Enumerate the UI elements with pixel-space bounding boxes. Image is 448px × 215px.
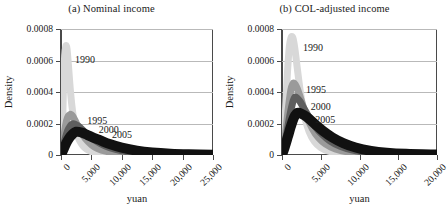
panel-a-x-tick-label: 0 (62, 162, 72, 172)
panel-a-x-tick-label: 15,000 (138, 162, 164, 188)
panel-b-series-2005 (282, 113, 437, 155)
panel-b-y-tick-label: 0 (269, 150, 274, 160)
panel-a-x-tick (122, 155, 123, 160)
panel-a-y-tick-label: 0.0004 (27, 87, 53, 97)
panel-a-y-tick-label: 0.0008 (27, 24, 53, 34)
panel-b-label-1995: 1995 (306, 84, 326, 95)
panel-b-x-tick (437, 155, 438, 160)
panel-a-nominal-income: (a) Nominal income 00.00020.00040.00060.… (0, 0, 223, 215)
panel-b-y-tick-label: 0.0002 (248, 119, 274, 129)
panel-a-x-tick (152, 155, 153, 160)
panel-b-col-adjusted-income: (b) COL-adjusted income 00.00020.00040.0… (223, 0, 446, 215)
panel-b-x-tick-label: 10,000 (345, 162, 371, 188)
panel-b-x-tick-label: 20,000 (422, 162, 448, 188)
panel-a-curves (61, 29, 213, 155)
panel-b-y-tick-label: 0.0008 (248, 24, 274, 34)
panel-a-x-tick (213, 155, 214, 160)
panel-b-label-2000: 2000 (311, 101, 331, 112)
panel-a-x-tick-label: 10,000 (107, 162, 133, 188)
panel-a-curve-svg (61, 29, 213, 155)
panel-a-x-tick-label: 5,000 (80, 162, 102, 184)
panel-b-x-tick (321, 155, 322, 160)
panel-a-plot-area: 00.00020.00040.00060.000805,00010,00015,… (61, 29, 213, 155)
panel-b-x-tick-label: 15,000 (384, 162, 410, 188)
panel-b-title: (b) COL-adjusted income (223, 3, 446, 15)
panel-a-x-tick-label: 20,000 (168, 162, 194, 188)
panel-b-x-tick-label: 5,000 (309, 162, 331, 184)
panel-b-x-tick (360, 155, 361, 160)
panel-b-series-1990 (282, 37, 437, 155)
panel-a-y-axis-label: Density (3, 76, 15, 109)
panel-b-x-tick-label: 0 (283, 162, 293, 172)
panel-a-x-tick-label: 25,000 (198, 162, 224, 188)
panel-a-label-2005: 2005 (112, 129, 132, 140)
panel-a-x-axis-label: yuan (61, 193, 213, 205)
panel-a-label-1990: 1990 (75, 54, 95, 65)
panel-b-x-tick (282, 155, 283, 160)
panel-a-x-tick (91, 155, 92, 160)
panel-a-y-tick-label: 0 (48, 150, 53, 160)
panel-b-plot-area: 00.00020.00040.00060.000805,00010,00015,… (282, 29, 437, 155)
panel-a-y-tick-label: 0.0006 (27, 56, 53, 66)
panel-b-y-tick-label: 0.0006 (248, 56, 274, 66)
panel-a-y-tick-label: 0.0002 (27, 119, 53, 129)
panel-b-label-1990: 1990 (303, 42, 323, 53)
panel-a-title: (a) Nominal income (0, 3, 223, 15)
panel-b-label-2005: 2005 (315, 114, 335, 125)
panel-b-y-axis-label: Density (224, 76, 236, 109)
panel-b-x-tick (398, 155, 399, 160)
panel-a-x-tick (61, 155, 62, 160)
panel-b-y-tick-label: 0.0004 (248, 87, 274, 97)
panel-a-x-tick (183, 155, 184, 160)
panel-b-x-axis-label: yuan (282, 193, 437, 205)
